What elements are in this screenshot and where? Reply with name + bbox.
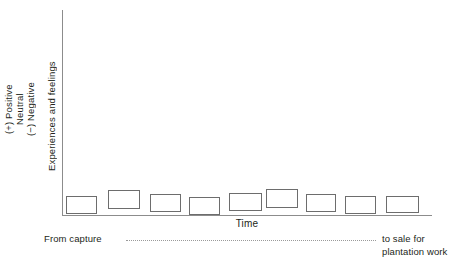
annotation-end-label: to sale for plantation work (382, 232, 447, 258)
y-tick-positive: (+) Positive (3, 84, 14, 134)
annotation-end-line2: plantation work (382, 245, 447, 258)
timeline-annotation: From capture to sale for plantation work (44, 233, 454, 267)
data-box (229, 193, 262, 211)
y-tick-negative: (−) Negative (25, 82, 36, 136)
data-box (306, 194, 336, 212)
y-axis-title: Experiences and feelings (44, 46, 58, 186)
chart-figure: (−) Negative Neutral (+) Positive Experi… (0, 0, 460, 270)
y-axis-tick-labels: (−) Negative Neutral (+) Positive (22, 14, 36, 204)
x-axis-line (62, 215, 432, 216)
data-box (386, 196, 419, 213)
data-box (345, 196, 376, 214)
data-box (189, 197, 220, 215)
data-box (66, 196, 97, 214)
annotation-end-line1: to sale for (382, 232, 447, 245)
annotation-dotted-connector (126, 240, 376, 242)
data-box (150, 194, 181, 212)
y-axis-line (62, 10, 63, 216)
data-box (108, 190, 140, 209)
x-axis-title: Time (62, 218, 432, 229)
data-box (266, 189, 298, 208)
y-tick-neutral: Neutral (14, 93, 25, 125)
annotation-start-label: From capture (44, 233, 102, 244)
